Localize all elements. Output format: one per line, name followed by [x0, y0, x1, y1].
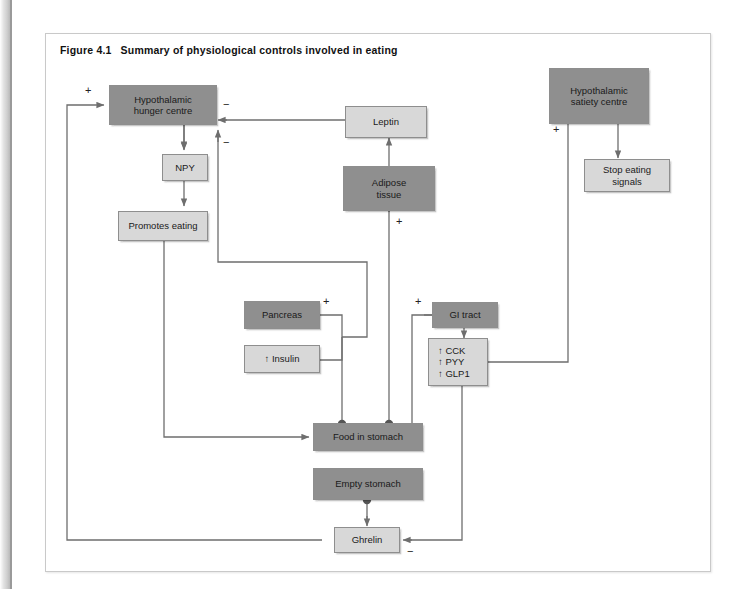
sign-satiety-plus: +: [553, 124, 559, 135]
node-stop-eating-signals[interactable]: Stop eating signals: [584, 159, 670, 192]
node-gut-hormones[interactable]: ↑ CCK ↑ PYY ↑ GLP1: [428, 338, 488, 386]
node-adipose-tissue[interactable]: Adipose tissue: [343, 166, 435, 211]
node-label: Pancreas: [262, 309, 302, 321]
node-ghrelin[interactable]: Ghrelin: [334, 527, 400, 553]
node-label: Adipose tissue: [372, 177, 406, 200]
node-empty-stomach[interactable]: Empty stomach: [313, 468, 423, 500]
sign-gi-tract-plus: +: [415, 296, 421, 307]
node-gi-tract[interactable]: GI tract: [432, 302, 498, 328]
sign-ghrelin-to-hunger-plus: +: [85, 85, 91, 96]
node-label: Ghrelin: [352, 534, 383, 546]
node-label: Promotes eating: [128, 220, 197, 232]
sign-leptin-to-hunger-minus: −: [223, 99, 229, 110]
node-label: Hypothalamic hunger centre: [134, 94, 193, 117]
node-insulin[interactable]: ↑ Insulin: [244, 345, 320, 373]
node-food-in-stomach[interactable]: Food in stomach: [313, 423, 423, 451]
node-label: GI tract: [449, 309, 480, 321]
node-pancreas[interactable]: Pancreas: [244, 301, 320, 329]
sign-food-to-adipose-plus: +: [396, 216, 402, 227]
node-label: NPY: [175, 162, 195, 174]
sign-insulin-to-hunger-minus: −: [223, 137, 229, 148]
page-body: Figure 4.1Summary of physiological contr…: [12, 0, 730, 589]
node-promotes-eating[interactable]: Promotes eating: [118, 211, 208, 241]
node-label: Hypothalamic satiety centre: [570, 85, 628, 108]
page-gutter: [0, 0, 10, 589]
node-label: ↑ Insulin: [265, 353, 300, 365]
node-hypothalamic-hunger-centre[interactable]: Hypothalamic hunger centre: [109, 85, 217, 125]
node-npy[interactable]: NPY: [162, 154, 208, 181]
node-label: Empty stomach: [335, 478, 400, 490]
node-label: Stop eating signals: [603, 164, 651, 187]
sign-pancreas-plus: +: [323, 296, 329, 307]
node-label: Leptin: [373, 116, 399, 128]
node-label: Food in stomach: [333, 431, 403, 443]
node-leptin[interactable]: Leptin: [345, 106, 427, 138]
node-label: ↑ CCK ↑ PYY ↑ GLP1: [438, 345, 470, 380]
sign-ghrelin-minus: −: [407, 546, 413, 557]
node-hypothalamic-satiety-centre[interactable]: Hypothalamic satiety centre: [549, 68, 649, 124]
